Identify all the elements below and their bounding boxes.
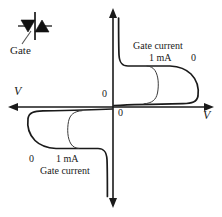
axes-group xyxy=(8,8,214,208)
quadrant-one-zero-curve-label: 0 xyxy=(191,53,196,64)
quadrant-one-note-line2: 1 mA xyxy=(149,53,172,64)
quadrant-three-note-line1: Gate current xyxy=(40,166,90,177)
figure-canvas xyxy=(0,0,222,217)
curve-forward-1ma-gate xyxy=(144,66,158,104)
current-axis-arrow-down xyxy=(109,198,117,208)
voltage-axis-label-left: V xyxy=(14,85,21,98)
triac-characteristic-figure: Gate V V 0 0 Gate current 1 mA 0 0 1 mA … xyxy=(0,0,222,217)
gate-lead-line xyxy=(22,31,31,44)
quadrant-one-note-line1: Gate current xyxy=(133,41,183,52)
origin-label-lower: 0 xyxy=(118,108,123,119)
gate-label: Gate xyxy=(10,45,31,57)
origin-label-upper: 0 xyxy=(102,89,107,100)
quadrant-three-current-curve-label: 1 mA xyxy=(56,154,79,165)
curve-reverse-1ma-gate xyxy=(68,111,82,149)
quadrant-three-zero-curve-label: 0 xyxy=(29,154,34,165)
voltage-axis-arrow-left xyxy=(8,103,18,111)
current-axis-arrow-up xyxy=(109,8,117,18)
voltage-axis-label-right: V xyxy=(203,109,210,122)
triac-symbol xyxy=(18,12,52,44)
